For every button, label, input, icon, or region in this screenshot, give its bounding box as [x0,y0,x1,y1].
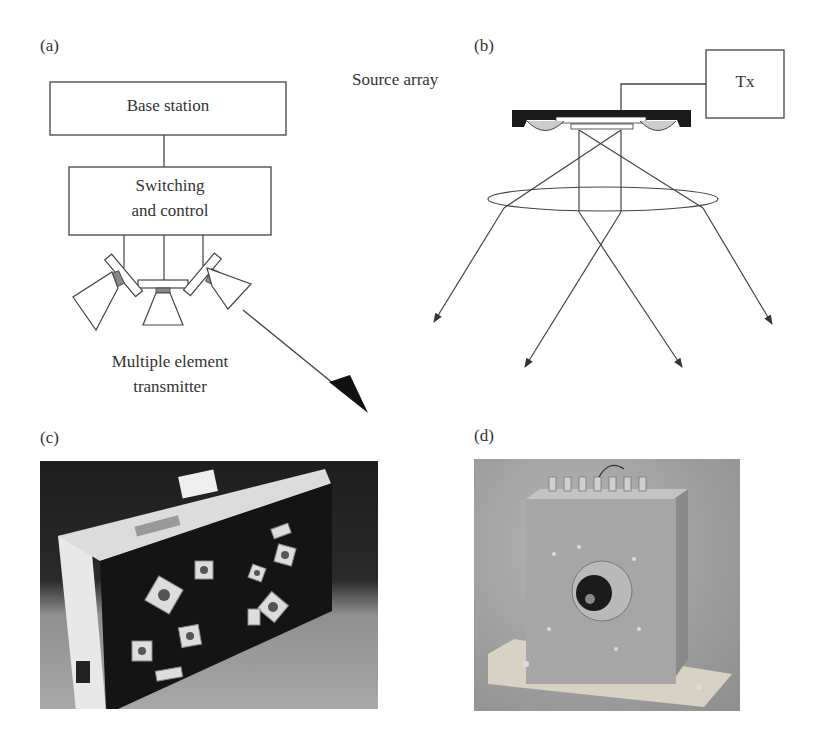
photo-receiver-housing [474,459,740,711]
base-station-label: Base station [50,96,286,116]
switching-label-line2: and control [69,201,271,221]
switching-label-line1: Switching [69,176,271,196]
beam-paths [434,130,772,367]
tx-label: Tx [706,72,784,92]
source-array-icon [512,110,691,131]
transmitter-caption-line1: Multiple element [60,352,280,372]
panel-label-c: (c) [40,428,59,448]
photo-multi-element-transmitter [40,461,378,709]
transmitter-caption-line2: transmitter [60,377,280,397]
multi-element-transmitter-icon [73,253,251,330]
source-array-label: Source array [352,70,438,90]
